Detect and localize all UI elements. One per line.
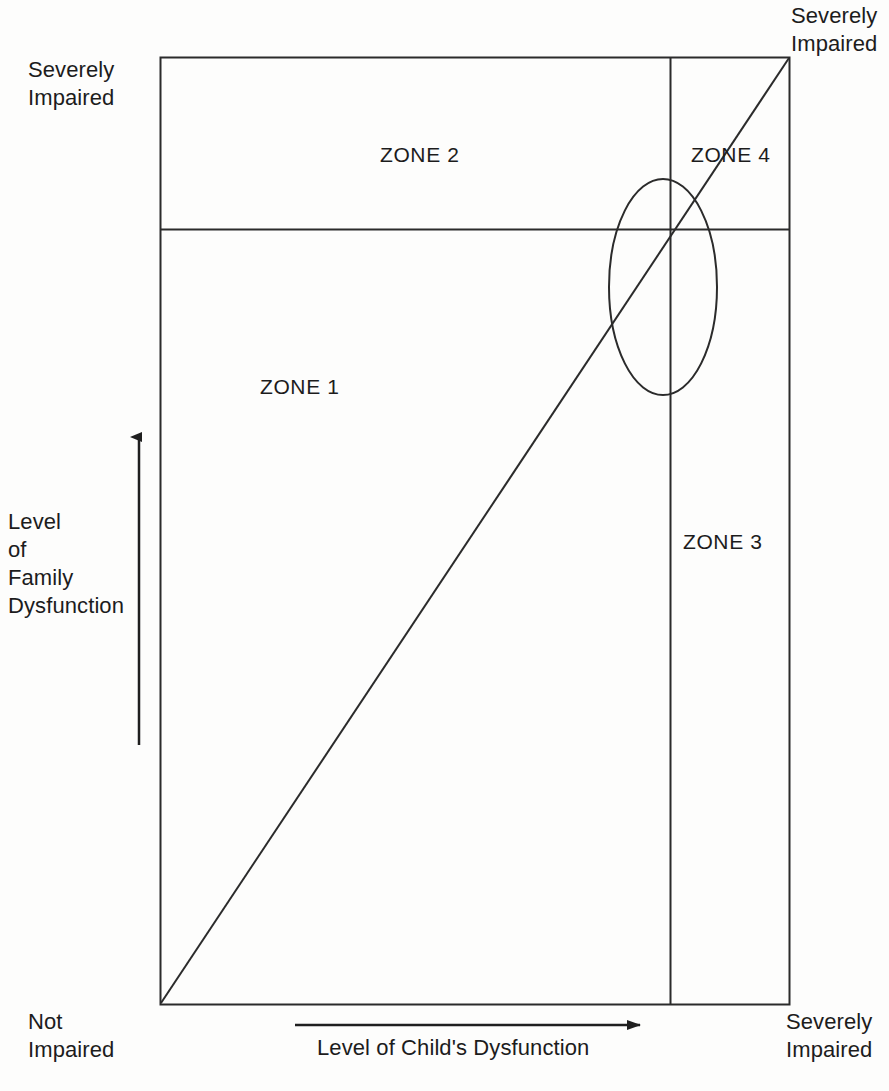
- zone-4-label: ZONE 4: [691, 142, 770, 169]
- x-axis-max-label: Severely Impaired: [786, 1008, 872, 1064]
- y-axis-title: Level of Family Dysfunction: [8, 508, 124, 621]
- x-axis-title: Level of Child's Dysfunction: [317, 1034, 589, 1062]
- diagram-canvas: Severely Impaired Severely Impaired Not …: [0, 0, 889, 1091]
- origin-min-label: Not Impaired: [28, 1008, 114, 1064]
- highlight-ellipse: [609, 179, 717, 395]
- top-right-corner-label: Severely Impaired: [791, 2, 877, 58]
- zone-3-label: ZONE 3: [683, 529, 762, 556]
- y-axis-max-label: Severely Impaired: [28, 56, 114, 112]
- zone-1-label: ZONE 1: [260, 374, 339, 401]
- zone-2-label: ZONE 2: [380, 142, 459, 169]
